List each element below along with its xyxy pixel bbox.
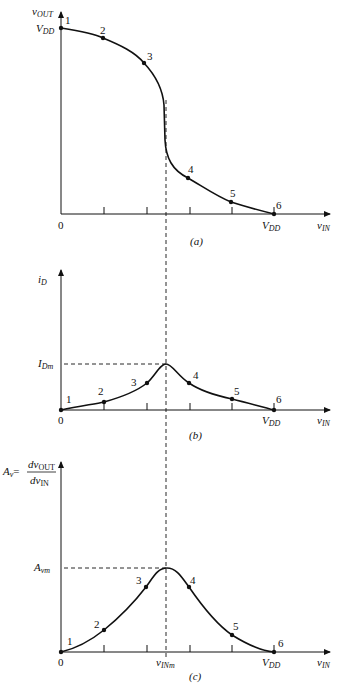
- gain-curve: [61, 568, 274, 652]
- point-label-c3: 3: [136, 574, 142, 586]
- y-axis-label-b: iD: [38, 273, 47, 287]
- point-label-a4: 4: [188, 163, 194, 175]
- x-axis-label-b: vIN: [317, 414, 331, 428]
- vinm-label: vINm: [156, 656, 175, 670]
- x-end-label-a: VDD: [262, 219, 281, 233]
- idm-level-label: IDm: [37, 357, 53, 371]
- point-label-a3: 3: [147, 50, 153, 62]
- point-label-a5: 5: [230, 187, 236, 199]
- vdd-level-label-a: VDD: [36, 22, 55, 36]
- point-label-b5: 5: [234, 385, 240, 397]
- avm-level-label: Avm: [33, 561, 50, 575]
- caption-c: (c): [189, 670, 202, 683]
- x-origin-label-b: 0: [58, 414, 64, 426]
- points-c: [59, 585, 276, 654]
- x-end-label-c: VDD: [262, 656, 281, 670]
- point-label-b6: 6: [276, 393, 282, 405]
- points-b: [59, 381, 276, 412]
- points-a: [59, 26, 276, 216]
- point-label-a1: 1: [65, 14, 71, 26]
- svg-text:dvOUT: dvOUT: [28, 458, 55, 472]
- point-label-b3: 3: [131, 376, 137, 388]
- x-ticks-c: [104, 645, 274, 652]
- point-label-a6: 6: [276, 199, 282, 211]
- point-label-a2: 2: [100, 24, 106, 36]
- point-label-c4: 4: [190, 574, 196, 586]
- point-label-b1: 1: [66, 393, 72, 405]
- drain-current-curve: [61, 364, 274, 410]
- caption-b: (b): [189, 429, 202, 442]
- point-label-c1: 1: [67, 635, 73, 647]
- point-label-c5: 5: [233, 620, 239, 632]
- point-label-c6: 6: [278, 637, 284, 649]
- x-axis-label-a: vIN: [317, 219, 331, 233]
- x-axis-label-c: vIN: [317, 656, 331, 670]
- svg-text:dvIN: dvIN: [30, 474, 49, 488]
- panel-a: 1 2 3 4 5 6 vOUT VDD 0 VDD vIN (a): [32, 5, 331, 248]
- point-label-b2: 2: [98, 385, 104, 397]
- svg-text:Av=: Av=: [2, 465, 20, 479]
- point-label-c2: 2: [94, 618, 100, 630]
- x-end-label-b: VDD: [262, 414, 281, 428]
- panel-b: 1 2 3 4 5 6 iD IDm 0 VDD vIN (b): [37, 270, 331, 442]
- y-axis-label-a: vOUT: [32, 5, 53, 19]
- y-axis-label-c: Av= dvOUT dvIN: [2, 458, 56, 488]
- vtc-curve: [61, 28, 274, 214]
- point-label-b4: 4: [193, 369, 199, 381]
- x-origin-label-a: 0: [58, 219, 64, 231]
- caption-a: (a): [190, 235, 203, 248]
- figure-canvas: 1 2 3 4 5 6 vOUT VDD 0 VDD vIN (a): [0, 0, 342, 692]
- x-origin-label-c: 0: [58, 656, 64, 668]
